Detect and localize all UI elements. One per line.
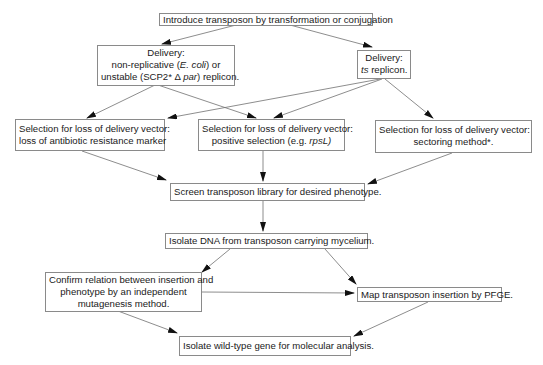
edge-map-to-isolate-gene: [354, 302, 428, 336]
edge-antibiotic-to-screen: [82, 151, 166, 180]
node-text-italic: par: [183, 71, 197, 82]
node-text: Confirm relation between insertion and: [49, 274, 198, 286]
edge-ts-to-select-positive: [274, 79, 382, 118]
node-text: phenotype by an independent: [49, 286, 198, 298]
node-map-pfge: Map transposon insertion by PFGE.: [357, 287, 502, 302]
node-text: Isolate DNA from transposon carrying myc…: [169, 235, 364, 247]
node-text: Selection for loss of delivery vector:: [19, 123, 161, 135]
node-text: Map transposon insertion by PFGE.: [361, 289, 498, 301]
node-text: unstable (SCP2* Δ par) replicon.: [101, 71, 231, 83]
node-text-part: ) replicon.: [197, 71, 239, 82]
node-text: non-replicative (E. coli) or: [101, 59, 231, 71]
node-text-part: non-replicative (: [112, 59, 180, 70]
edge-introduce-to-delivery-ts: [290, 25, 372, 47]
edge-nonrep-to-select-positive: [158, 85, 256, 118]
node-text: positive selection (e.g. rpsL): [202, 135, 341, 147]
node-text-italic: E. coli: [180, 59, 206, 70]
edge-dna-to-confirm: [202, 249, 230, 272]
node-confirm-relation: Confirm relation between insertion and p…: [45, 272, 202, 312]
edge-introduce-to-delivery-nonrep: [162, 25, 236, 44]
edge-confirm-to-map: [202, 292, 354, 293]
node-isolate-gene: Isolate wild-type gene for molecular ana…: [179, 336, 351, 356]
edge-nonrep-to-select-antibiotic: [87, 85, 155, 118]
edge-sectoring-to-screen: [368, 153, 452, 184]
node-select-positive: Selection for loss of delivery vector: p…: [198, 119, 345, 151]
node-text: mutagenesis method.: [49, 298, 198, 310]
node-text-part: positive selection (e.g.: [212, 135, 310, 146]
node-screen-library: Screen transposon library for desired ph…: [170, 183, 365, 201]
node-text: Introduce transposon by transformation o…: [163, 14, 369, 26]
node-isolate-dna: Isolate DNA from transposon carrying myc…: [165, 233, 368, 249]
edge-ts-to-select-sectoring: [385, 79, 433, 118]
node-text-italic: rpsL): [309, 135, 331, 146]
node-text: Delivery:: [361, 52, 407, 64]
node-delivery-nonreplicative: Delivery: non-replicative (E. coli) or u…: [97, 45, 235, 86]
edge-dna-to-map: [325, 249, 356, 284]
node-text: Delivery:: [101, 47, 231, 59]
node-select-sectoring: Selection for loss of delivery vector: s…: [375, 120, 532, 153]
node-delivery-ts: Delivery: ts replicon.: [357, 50, 411, 79]
node-text: sectoring method*.: [379, 136, 528, 148]
node-text: Isolate wild-type gene for molecular ana…: [183, 340, 347, 352]
node-text: ts replicon.: [361, 64, 407, 76]
node-introduce-transposon: Introduce transposon by transformation o…: [159, 13, 373, 26]
node-select-antibiotic: Selection for loss of delivery vector: l…: [15, 119, 165, 151]
node-text: Selection for loss of delivery vector:: [202, 123, 341, 135]
node-text: Screen transposon library for desired ph…: [174, 186, 361, 198]
node-text-part: replicon.: [368, 64, 407, 75]
node-text-part: ) or: [206, 59, 220, 70]
node-text-part: unstable (SCP2* Δ: [101, 71, 183, 82]
edge-confirm-to-isolate-gene: [118, 311, 177, 333]
node-text: Selection for loss of delivery vector:: [379, 124, 528, 136]
node-text: loss of antibiotic resistance marker: [19, 135, 161, 147]
